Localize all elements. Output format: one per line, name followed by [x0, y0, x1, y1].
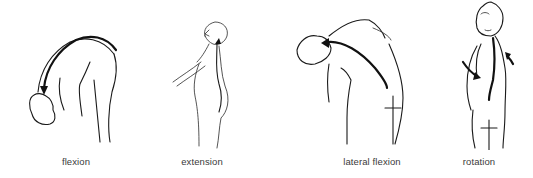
lateral-flexion-figure: [285, 0, 415, 150]
label-lateral-flexion: lateral flexion: [343, 156, 400, 167]
flexion-illustration: [20, 0, 120, 150]
rotation-illustration: [455, 0, 533, 150]
label-flexion: flexion: [62, 156, 90, 167]
flexion-figure: [20, 0, 120, 150]
label-rotation: rotation: [463, 156, 496, 167]
extension-illustration: [165, 0, 245, 150]
spinal-movements-diagram: flexion extension lateral flexion rotati…: [0, 0, 533, 178]
extension-figure: [165, 0, 245, 150]
lateral-flexion-illustration: [285, 0, 415, 150]
rotation-figure: [455, 0, 533, 150]
label-extension: extension: [181, 156, 223, 167]
